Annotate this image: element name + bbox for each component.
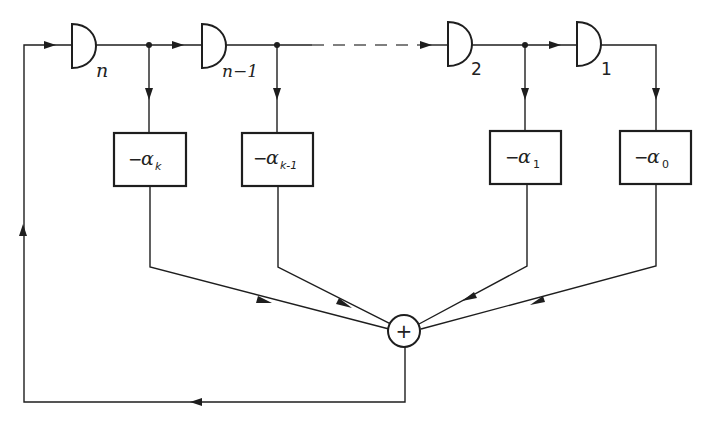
delay-label: 1 [601, 59, 612, 79]
delay-element-n: n [72, 24, 108, 81]
delay-element-n-1: n−1 [202, 24, 258, 81]
coef-subscript: k [155, 160, 162, 173]
coefficient-box-0: − α 0 [620, 131, 691, 184]
arrow-into-dn1 [172, 41, 184, 49]
tap-arrow [273, 88, 281, 100]
shift-register-diagram: n n−1 2 1 − α k − α k-1 − α 1 − α [0, 0, 701, 423]
coef-symbol: α [647, 145, 660, 167]
coef-symbol: α [141, 147, 154, 169]
delay-label: n−1 [222, 61, 258, 81]
coef-symbol: α [518, 145, 531, 167]
plus-icon: + [396, 319, 413, 343]
sum-wire-1 [419, 184, 527, 324]
feedback-arrow-left [190, 398, 202, 406]
adder: + [388, 315, 420, 347]
coef-subscript: k-1 [280, 159, 297, 172]
coefficient-box-k: − α k [114, 133, 186, 186]
main-wire-5 [601, 45, 656, 130]
coef-subscript: 1 [533, 158, 540, 171]
delay-element-1: 1 [577, 22, 612, 79]
input-arrow [44, 41, 56, 49]
coef-symbol: α [266, 146, 279, 168]
delay-element-2: 2 [448, 22, 482, 79]
sum-wire-k [150, 186, 389, 329]
coefficient-box-k-1: − α k-1 [242, 133, 313, 186]
coef-subscript: 0 [662, 158, 669, 171]
sum-wire-k-1 [278, 186, 391, 324]
delay-label: 2 [471, 59, 482, 79]
feedback-arrow-up [19, 224, 27, 236]
sum-wire-0 [421, 184, 656, 329]
tap-arrow [145, 88, 153, 100]
arrow-into-d2 [420, 41, 432, 49]
tap-arrow [521, 88, 529, 100]
tap-arrow [652, 88, 660, 100]
arrow-into-d1 [549, 41, 561, 49]
coefficient-box-1: − α 1 [490, 131, 561, 184]
delay-label: n [96, 59, 108, 81]
feedback-wire [24, 45, 405, 402]
